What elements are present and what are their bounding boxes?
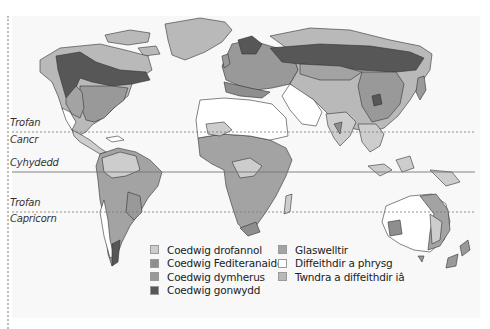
- swatch-temperate-forest: [150, 272, 159, 281]
- legend-label: Coedwig gonwydd: [167, 284, 260, 296]
- tropic-of-cancer-label-1: Trofan: [10, 117, 40, 128]
- legend-item-tropical-forest: Coedwig drofannol: [150, 243, 283, 257]
- swatch-coniferous-forest: [150, 286, 159, 295]
- tropic-of-capricorn-label-1: Trofan: [10, 197, 40, 208]
- legend-label: Diffeithdir a phrysg: [295, 257, 393, 269]
- legend-label: Coedwig Fediteranaidd: [167, 257, 283, 269]
- swatch-desert-scrub: [278, 259, 287, 268]
- legend-column-1: Coedwig drofannol Coedwig Fediteranaidd …: [150, 243, 283, 297]
- legend-item-tundra-ice: Twndra a diffeithdir iâ: [278, 270, 405, 284]
- asia: [270, 28, 432, 132]
- swatch-tundra-ice: [278, 272, 287, 281]
- legend-item-temperate-forest: Coedwig dymherus: [150, 270, 283, 284]
- legend-label: Twndra a diffeithdir iâ: [295, 271, 405, 283]
- legend-label: Coedwig dymherus: [167, 271, 265, 283]
- legend-label: Coedwig drofannol: [167, 244, 262, 256]
- swatch-grassland: [278, 245, 287, 254]
- swatch-tropical-forest: [150, 245, 159, 254]
- legend-item-grassland: Glaswelltir: [278, 243, 405, 257]
- legend-label: Glaswelltir: [295, 244, 348, 256]
- greenland: [165, 18, 232, 60]
- legend-item-mediterranean-forest: Coedwig Fediteranaidd: [150, 257, 283, 271]
- equator-label: Cyhydedd: [10, 157, 59, 168]
- tropic-of-capricorn-label-2: Capricorn: [10, 213, 57, 224]
- legend-column-2: Glaswelltir Diffeithdir a phrysg Twndra …: [278, 243, 405, 284]
- swatch-mediterranean-forest: [150, 259, 159, 268]
- africa: [198, 134, 292, 232]
- legend-item-coniferous-forest: Coedwig gonwydd: [150, 284, 283, 298]
- tropic-of-cancer-label-2: Cancr: [10, 134, 38, 145]
- legend-item-desert-scrub: Diffeithdir a phrysg: [278, 257, 405, 271]
- legend: Coedwig drofannol Coedwig Fediteranaidd …: [150, 243, 450, 303]
